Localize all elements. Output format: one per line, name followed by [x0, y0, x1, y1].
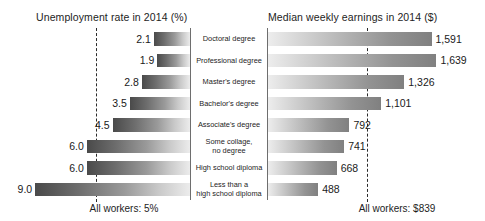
earnings-value-label: 792: [353, 117, 371, 132]
unemployment-value-label: 2.8: [0, 74, 139, 89]
category-label: Bachelor's degree: [192, 93, 266, 115]
earnings-bar: [268, 32, 432, 46]
category-label-text: High school diploma: [196, 163, 263, 172]
earnings-bar: [268, 54, 436, 68]
chart-row: 2.8Master's degree1,326: [0, 71, 485, 93]
unemployment-value-label: 3.5: [0, 96, 127, 111]
unemployment-value-label: 1.9: [0, 53, 154, 68]
earnings-bar: [268, 75, 404, 89]
unemployment-bar: [154, 32, 190, 46]
unemployment-bar: [130, 97, 190, 111]
right-panel-title: Median weekly earnings in 2014 ($): [268, 11, 437, 23]
category-label: Associate's degree: [192, 114, 266, 136]
category-label-text: Less than ahigh school diploma: [196, 180, 261, 198]
earnings-value-label: 1,591: [436, 31, 462, 46]
chart-row: 4.5Associate's degree792: [0, 114, 485, 136]
category-label: Master's degree: [192, 71, 266, 93]
unemployment-value-label: 4.5: [0, 117, 110, 132]
earnings-value-label: 1,101: [385, 96, 411, 111]
unemployment-bar: [113, 118, 190, 132]
earnings-value-label: 741: [348, 139, 366, 154]
right-panel-footnote: All workers: $839: [359, 203, 436, 214]
category-label: High school diploma: [192, 157, 266, 179]
earnings-value-label: 1,639: [440, 53, 466, 68]
left-panel-footnote: All workers: 5%: [90, 203, 159, 214]
unemployment-bar: [35, 183, 190, 197]
category-label-text: Associate's degree: [198, 120, 260, 129]
unemployment-value-label: 6.0: [0, 139, 84, 154]
category-label: Some collage,no degree: [192, 136, 266, 158]
unemployment-value-label: 9.0: [0, 182, 32, 197]
earnings-bar: [268, 118, 349, 132]
category-label: Less than ahigh school diploma: [192, 179, 266, 201]
earnings-bar: [268, 183, 318, 197]
chart-row: 6.0High school diploma668: [0, 157, 485, 179]
chart-row: 6.0Some collage,no degree741: [0, 136, 485, 158]
earnings-value-label: 1,326: [408, 74, 434, 89]
category-label-text: Some collage,no degree: [206, 137, 253, 155]
chart-row: 1.9Professional degree1,639: [0, 50, 485, 72]
category-label-text: Doctoral degree: [203, 34, 256, 43]
category-label-text: Master's degree: [203, 77, 256, 86]
earnings-value-label: 668: [341, 160, 359, 175]
unemployment-bar: [142, 75, 190, 89]
unemployment-bar: [87, 140, 190, 154]
unemployment-bar: [157, 54, 190, 68]
category-label: Professional degree: [192, 50, 266, 72]
category-label: Doctoral degree: [192, 28, 266, 50]
earnings-value-label: 488: [322, 182, 340, 197]
unemployment-value-label: 2.1: [0, 31, 151, 46]
chart-row: 9.0Less than ahigh school diploma488: [0, 179, 485, 201]
unemployment-bar: [87, 161, 190, 175]
category-label-text: Professional degree: [196, 56, 262, 65]
earnings-bar: [268, 140, 344, 154]
earnings-bar: [268, 97, 381, 111]
chart-row: 3.5Bachelor's degree1,101: [0, 93, 485, 115]
left-panel-title: Unemployment rate in 2014 (%): [36, 11, 187, 23]
chart-row: 2.1Doctoral degree1,591: [0, 28, 485, 50]
earnings-bar: [268, 161, 337, 175]
dual-bar-chart: Unemployment rate in 2014 (%) Median wee…: [0, 0, 485, 221]
category-label-text: Bachelor's degree: [199, 99, 258, 108]
unemployment-value-label: 6.0: [0, 160, 84, 175]
